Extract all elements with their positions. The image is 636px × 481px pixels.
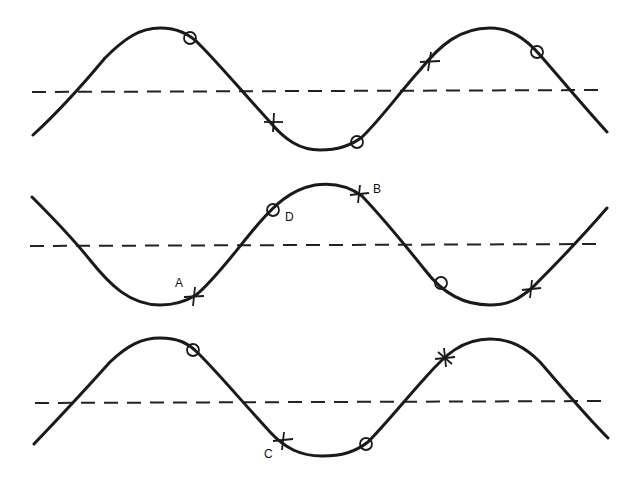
wave-middle: A B D [30, 182, 607, 306]
equilibrium-line-top [32, 90, 604, 92]
equilibrium-line-middle [30, 244, 604, 246]
wave-diagram: A B D C [0, 0, 636, 481]
label-a: A [175, 276, 183, 290]
wave-bottom: C [34, 338, 608, 461]
wave-curve-bottom [34, 338, 608, 456]
label-b: B [373, 182, 381, 196]
wave-curve-top [33, 28, 607, 150]
cross-marker [264, 113, 283, 132]
equilibrium-line-bottom [35, 401, 604, 403]
label-d: D [285, 210, 294, 224]
diagram-canvas: A B D C [0, 0, 636, 481]
wave-top [32, 28, 607, 150]
label-c: C [264, 447, 273, 461]
